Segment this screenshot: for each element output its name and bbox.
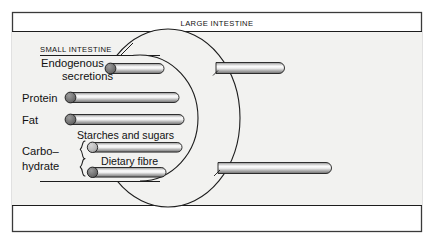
tube-cap-fat (65, 114, 76, 125)
tube-dietary-fibre (87, 167, 166, 177)
small-intestine-label: SMALL INTESTINE (40, 45, 112, 54)
label-dietary-fibre: Dietary fibre (101, 155, 158, 167)
tube-cap-dietary-fibre (87, 167, 97, 177)
tube-starches-and-sugars (87, 142, 182, 152)
large-intestine-title: LARGE INTESTINE (181, 19, 254, 28)
label-carbohydrate-line2: hydrate (22, 160, 59, 172)
tube-cap-protein (65, 92, 76, 103)
tube-cap-starches-and-sugars (87, 142, 97, 152)
label-endogenous-secretions-line1: Endogenous (41, 57, 104, 69)
label-fat: Fat (22, 114, 39, 126)
tube-protein (65, 92, 179, 103)
digestion-diagram: LARGE INTESTINE SMALL INTESTINE Endogeno… (0, 0, 434, 244)
tube-endogenous-secretions (105, 63, 164, 74)
tube-fat (65, 114, 184, 125)
label-carbohydrate-line1: Carbo– (22, 145, 59, 157)
label-endogenous-secretions-line2: secretions (62, 70, 113, 82)
label-protein: Protein (22, 92, 57, 104)
label-starches-and-sugars: Starches and sugars (77, 129, 174, 141)
large-intestine-tube-upper (213, 63, 285, 76)
